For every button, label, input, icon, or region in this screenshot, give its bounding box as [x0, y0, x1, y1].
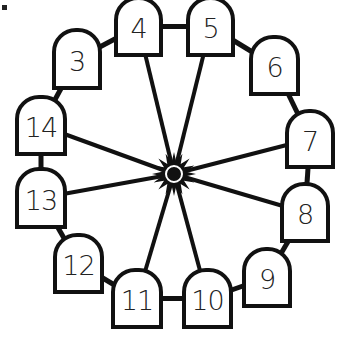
gondola-10: 10 — [182, 268, 233, 329]
gondola-label: 14 — [25, 112, 57, 143]
gondola-12: 12 — [53, 233, 104, 294]
gondola-8: 8 — [280, 182, 330, 243]
gondola-label: 11 — [121, 285, 153, 316]
gondola-label: 10 — [191, 285, 223, 316]
gondola-14: 14 — [15, 95, 67, 156]
gondola-label: 9 — [259, 264, 275, 295]
gondola-6: 6 — [249, 35, 300, 96]
gondola-label: 4 — [130, 13, 146, 44]
gondola-3: 3 — [52, 28, 102, 90]
gondola-11: 11 — [111, 268, 163, 329]
hub-star-icon — [152, 152, 196, 196]
gondola-label: 12 — [62, 250, 94, 281]
gondola-5: 5 — [186, 0, 235, 57]
gondola-4: 4 — [114, 0, 163, 57]
gondola-label: 8 — [297, 199, 313, 230]
gondola-label: 13 — [25, 185, 57, 216]
gondola-7: 7 — [285, 109, 335, 169]
gondola-label: 7 — [302, 126, 318, 157]
gondola-9: 9 — [242, 247, 292, 308]
gondola-13: 13 — [15, 167, 67, 229]
gondola-label: 6 — [266, 52, 282, 83]
ferris-wheel-diagram: 34567891011121314 — [0, 0, 346, 342]
gondola-label: 5 — [202, 13, 218, 44]
gondola-label: 3 — [69, 46, 85, 77]
